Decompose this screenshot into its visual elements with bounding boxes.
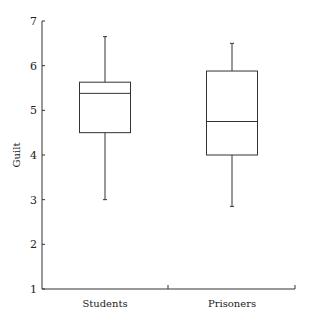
y-axis: 1234567: [30, 15, 45, 296]
iqr-box: [207, 71, 258, 155]
y-tick-label: 3: [30, 194, 37, 207]
box-plot-chart: 1234567 StudentsPrisoners Guilt: [0, 0, 309, 322]
boxes: [80, 37, 258, 207]
x-category-label: Students: [82, 298, 127, 309]
y-tick-label: 5: [30, 104, 37, 117]
y-tick-label: 2: [30, 238, 37, 251]
x-axis: StudentsPrisoners: [42, 285, 295, 309]
box-students: [80, 37, 131, 200]
box-prisoners: [207, 43, 258, 206]
x-category-label: Prisoners: [208, 298, 256, 309]
y-tick-label: 1: [30, 283, 37, 296]
y-axis-title: Guilt: [11, 143, 22, 168]
iqr-box: [80, 82, 131, 132]
y-tick-label: 7: [30, 15, 37, 28]
y-tick-label: 4: [30, 149, 37, 162]
y-tick-label: 6: [30, 60, 37, 73]
